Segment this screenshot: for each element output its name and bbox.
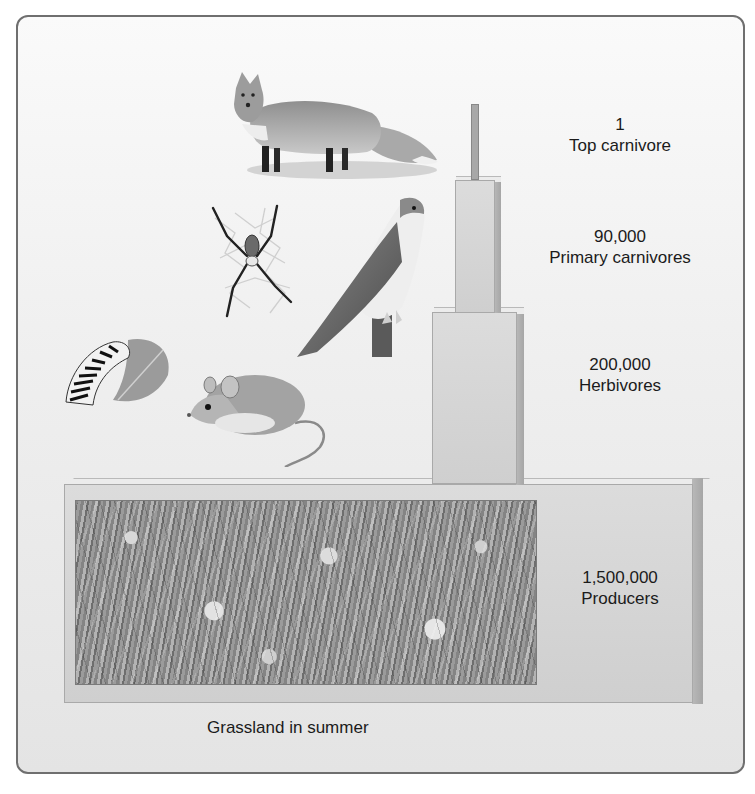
spider-illustration	[205, 198, 300, 323]
top-carnivore-label: 1 Top carnivore	[540, 114, 700, 156]
primary-carnivores-label: 90,000 Primary carnivores	[525, 226, 715, 268]
primary-carnivores-block	[455, 180, 495, 313]
top-carnivore-block	[471, 104, 479, 180]
producers-count: 1,500,000	[540, 567, 700, 588]
primary-carnivores-block-side	[494, 176, 501, 313]
herbivores-name: Herbivores	[540, 375, 700, 396]
falcon-illustration	[292, 192, 432, 362]
primary-carnivores-count: 90,000	[525, 226, 715, 247]
herbivores-count: 200,000	[540, 354, 700, 375]
grassland-photo	[75, 500, 537, 685]
top-carnivore-name: Top carnivore	[540, 135, 700, 156]
mouse-illustration	[180, 355, 330, 467]
primary-carnivores-name: Primary carnivores	[525, 247, 715, 268]
herbivores-block-side	[516, 307, 524, 485]
top-carnivore-count: 1	[540, 114, 700, 135]
herbivores-block	[432, 312, 517, 484]
producers-label: 1,500,000 Producers	[540, 567, 700, 609]
caterpillar-illustration	[58, 330, 178, 415]
producers-name: Producers	[540, 588, 700, 609]
fox-illustration	[222, 68, 442, 183]
herbivores-label: 200,000 Herbivores	[540, 354, 700, 396]
figure-caption: Grassland in summer	[207, 718, 369, 738]
